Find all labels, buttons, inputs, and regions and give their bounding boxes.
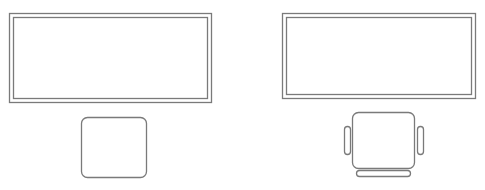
desk-left-outer [10, 14, 212, 103]
desk-right-outer [283, 14, 476, 99]
floor-plan-canvas [0, 0, 485, 190]
chair-right-backrest [357, 171, 411, 177]
workstation-right [283, 14, 476, 177]
workstation-left [10, 14, 212, 178]
chair-right-seat [353, 113, 415, 169]
chair-left-seat [82, 118, 147, 178]
desk-right-inner [287, 18, 472, 95]
chair-right-armrest-right [418, 127, 424, 155]
chair-right-armrest-left [345, 127, 351, 155]
desk-left-inner [14, 18, 208, 99]
